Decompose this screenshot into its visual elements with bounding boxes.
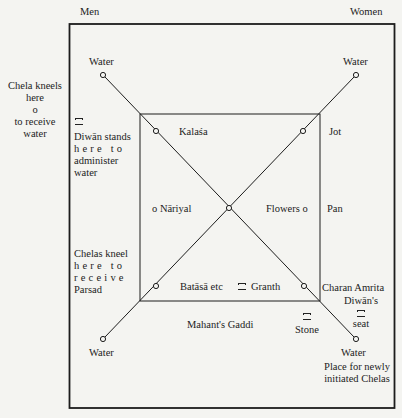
seat-label: seat [330,318,392,330]
batasa-label: Batāsā etc [180,281,223,293]
diwan-stands-note: Diwān stands here to administer water [74,131,131,179]
stone-icon [303,313,311,320]
pan-label: Pan [327,203,343,215]
diwan-line-2: here to [74,143,131,155]
granth-label: Granth [251,281,280,293]
diwan-line-4: water [74,167,131,179]
kalasa-label: Kalaśa [179,126,208,138]
chelas-line-2: here to [74,260,128,272]
newly-initiated-note: Place for newly initiated Chelas [313,361,401,385]
water-pot-top-left [100,72,105,77]
chela-receive-line-1: to receive [4,116,66,128]
batasa-marker [153,283,158,288]
granth-stool-icon [238,283,246,290]
stone-label: Stone [295,324,319,336]
chelas-line-4: Parsad [74,284,128,296]
chelas-line-3: receive [74,272,128,284]
water-label-bottom-left: Water [89,347,114,359]
water-label-top-left: Water [89,56,114,68]
chela-kneels-line-2: here [4,92,66,104]
flowers-label: Flowers o [266,203,308,215]
water-pot-bottom-right [353,336,358,341]
mahants-gaddi-label: Mahant's Gaddi [187,319,253,331]
water-pot-top-right [353,72,358,77]
chelas-kneel-note: Chelas kneel here to receive Parsad [74,248,128,296]
charan-amrita-marker [301,283,306,288]
water-label-bottom-right: Water [341,347,366,359]
kalasa-marker [153,128,158,133]
charan-amrita-label: Charan Amrita [322,282,384,294]
chela-kneel-spot-icon: o [4,104,66,116]
note-line-2: initiated Chelas [313,373,401,385]
jot-marker [300,128,305,133]
chela-receive-line-2: water [4,128,66,140]
chela-kneels-note: Chela kneels here o to receive water [4,80,66,140]
center-marker [226,205,231,210]
chelas-line-1: Chelas kneel [74,248,128,260]
diwan-seat-icon [357,310,365,317]
nariyal-label: o Nāriyal [152,203,191,215]
diwan-line-1: Diwān stands [74,131,131,143]
diwan-stool-icon [75,118,83,125]
women-label: Women [350,6,382,18]
men-label: Men [80,6,99,18]
water-pot-bottom-left [100,336,105,341]
water-label-top-right: Water [343,56,368,68]
note-line-1: Place for newly [313,361,401,373]
jot-label: Jot [329,126,341,138]
diwans-label: Diwān's [330,295,392,307]
chela-kneels-line-1: Chela kneels [4,80,66,92]
diwan-line-3: administer [74,155,131,167]
